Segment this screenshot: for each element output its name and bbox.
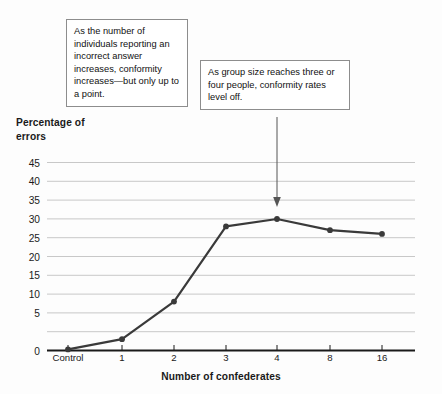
callout-arrow-icon (270, 117, 286, 207)
x-tick-control: Control (53, 352, 84, 363)
data-point (327, 227, 333, 233)
y-tick-0: 0 (14, 345, 40, 356)
x-tick-16: 16 (377, 352, 388, 363)
y-tick-30: 30 (14, 213, 40, 224)
x-axis-title: Number of confederates (0, 371, 442, 382)
figure: 45 40 35 30 25 20 15 10 5 0 Control 1 2 … (0, 0, 442, 394)
x-tick-1: 1 (119, 352, 124, 363)
y-axis-title-line-1: Percentage of (16, 116, 85, 130)
y-tick-45: 45 (14, 157, 40, 168)
x-tick-2: 2 (171, 352, 176, 363)
y-tick-15: 15 (14, 270, 40, 281)
y-axis-title-line-2: errors (16, 130, 85, 144)
y-tick-25: 25 (14, 232, 40, 243)
x-tick-8: 8 (327, 352, 332, 363)
gridlines (47, 163, 415, 332)
data-point (119, 336, 125, 342)
data-line (68, 219, 382, 349)
data-point (171, 299, 177, 305)
data-point (223, 224, 229, 230)
y-tick-20: 20 (14, 251, 40, 262)
y-tick-40: 40 (14, 176, 40, 187)
y-axis-title: Percentage of errors (16, 116, 85, 143)
data-point (274, 216, 280, 222)
data-point (379, 231, 385, 237)
y-tick-35: 35 (14, 195, 40, 206)
callout-annotation-increase: As the number of individuals reporting a… (66, 19, 188, 107)
y-tick-5: 5 (14, 307, 40, 318)
x-tick-4: 4 (274, 352, 279, 363)
x-tick-3: 3 (223, 352, 228, 363)
callout-annotation-plateau: As group size reaches three or four peop… (200, 60, 350, 110)
y-tick-10: 10 (14, 289, 40, 300)
